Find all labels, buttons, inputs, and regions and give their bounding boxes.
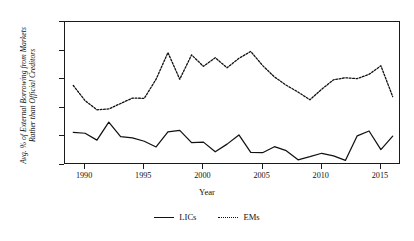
x-tick-label-2015: 2015 bbox=[360, 172, 400, 180]
legend-item-ems[interactable]: EMs bbox=[218, 213, 259, 222]
x-axis-title: Year bbox=[0, 187, 414, 197]
x-tick-label-2005: 2005 bbox=[242, 172, 282, 180]
legend-swatch-dotted-icon bbox=[218, 217, 238, 218]
x-tick-mark bbox=[321, 164, 322, 169]
y-axis-title-line-2: Rather than Official Creditors bbox=[28, 5, 37, 185]
series-line-lics bbox=[73, 122, 392, 160]
y-axis-title-line-1: Avg. % of External Borrowing from Market… bbox=[19, 5, 28, 185]
x-tick-mark bbox=[262, 164, 263, 169]
x-tick-label-1990: 1990 bbox=[64, 172, 104, 180]
x-tick-mark bbox=[84, 164, 85, 169]
plot-area bbox=[64, 21, 400, 164]
y-axis-title: Avg. % of External Borrowing from Market… bbox=[19, 5, 38, 185]
legend-label-ems: EMs bbox=[243, 213, 259, 222]
x-tick-label-1995: 1995 bbox=[123, 172, 163, 180]
y-tick-mark bbox=[59, 164, 64, 165]
chart-legend: LICs EMs bbox=[0, 213, 414, 222]
x-tick-mark bbox=[202, 164, 203, 169]
x-tick-mark bbox=[143, 164, 144, 169]
x-tick-label-2000: 2000 bbox=[182, 172, 222, 180]
plot-lines bbox=[65, 22, 401, 165]
legend-label-lics: LICs bbox=[179, 213, 196, 222]
legend-swatch-solid-icon bbox=[154, 217, 174, 218]
chart-figure: Avg. % of External Borrowing from Market… bbox=[0, 0, 414, 241]
legend-item-lics[interactable]: LICs bbox=[154, 213, 196, 222]
series-line-ems bbox=[73, 51, 392, 109]
x-tick-label-2010: 2010 bbox=[301, 172, 341, 180]
x-tick-mark bbox=[380, 164, 381, 169]
